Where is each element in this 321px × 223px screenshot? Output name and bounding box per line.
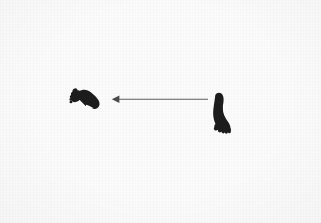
- right-footprint: [213, 93, 231, 134]
- arrow-head-icon: [112, 95, 120, 103]
- footprint-diagram: [0, 0, 321, 223]
- figure-canvas: [0, 0, 321, 223]
- left-footprint: [69, 87, 100, 109]
- direction-arrow: [112, 95, 208, 103]
